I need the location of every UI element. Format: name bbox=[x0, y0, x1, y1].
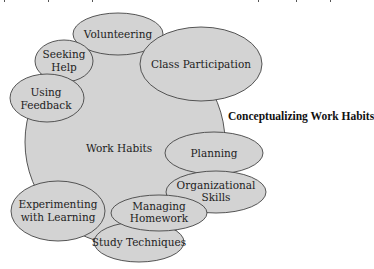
clipped-text-remnant bbox=[4, 0, 331, 2]
node-label: Study Techniques bbox=[92, 236, 186, 248]
node-planning: Planning bbox=[165, 132, 263, 174]
node-label-line-1: Seeking bbox=[43, 48, 86, 60]
node-managing-homework: Managing Homework bbox=[111, 195, 207, 231]
node-label-line-2: Homework bbox=[130, 212, 189, 224]
node-label: Volunteering bbox=[83, 28, 153, 40]
node-experimenting-with-learning: Experimenting with Learning bbox=[11, 181, 105, 241]
work-habits-label: Work Habits bbox=[86, 142, 152, 154]
node-label: Planning bbox=[190, 147, 237, 159]
node-label-line-1: Using bbox=[30, 86, 61, 98]
node-label-line-1: Managing bbox=[132, 200, 186, 212]
node-label-line-2: with Learning bbox=[21, 211, 96, 223]
node-label-line-2: Help bbox=[51, 61, 77, 73]
node-label-line-1: Experimenting bbox=[19, 198, 98, 210]
diagram-title: Conceptualizing Work Habits bbox=[228, 110, 374, 123]
node-label: Class Participation bbox=[151, 58, 251, 70]
node-using-feedback: Using Feedback bbox=[10, 74, 84, 122]
node-label-line-2: Feedback bbox=[20, 99, 72, 111]
node-class-participation: Class Participation bbox=[140, 27, 262, 101]
node-label-line-2: Skills bbox=[201, 191, 230, 203]
node-label-line-1: Organizational bbox=[177, 179, 256, 191]
work-habits-diagram: Work Habits Volunteering Class Participa… bbox=[0, 0, 374, 269]
